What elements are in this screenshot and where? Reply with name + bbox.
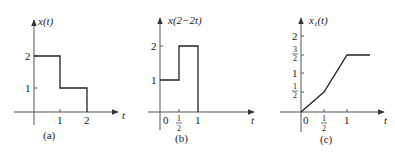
signal-x-t bbox=[34, 56, 87, 112]
ytick-c-32-den: 2 bbox=[293, 54, 297, 63]
plot-a: x(t) 2 1 1 2 t (a) bbox=[14, 15, 126, 142]
xtick-b-0: 0 bbox=[163, 114, 169, 126]
caption-b: (b) bbox=[175, 132, 188, 145]
xtick-b-half-num: 1 bbox=[177, 114, 181, 123]
ytick-c-32-num: 3 bbox=[293, 45, 297, 54]
ytick-a-2: 2 bbox=[25, 50, 31, 62]
xtick-a-1: 1 bbox=[57, 114, 63, 126]
title-b: x(2−2t) bbox=[167, 14, 202, 27]
t-label-b: t bbox=[251, 114, 255, 126]
xtick-a-2: 2 bbox=[84, 114, 90, 126]
ytick-c-2: 2 bbox=[292, 30, 298, 42]
t-label-c: t bbox=[384, 114, 388, 126]
ytick-b-2: 2 bbox=[151, 40, 157, 52]
caption-c: (c) bbox=[320, 133, 333, 146]
xtick-c-0: 0 bbox=[303, 114, 309, 126]
ytick-c-1: 1 bbox=[292, 67, 298, 79]
xtick-b-1: 1 bbox=[195, 114, 201, 126]
plot-b: x(2−2t) 2 1 0 1 2 1 t (b) bbox=[148, 14, 255, 145]
title-c: x1(t) bbox=[308, 14, 328, 28]
caption-a: (a) bbox=[43, 129, 56, 142]
t-label-a: t bbox=[122, 109, 126, 121]
signal-x-2-2t bbox=[160, 46, 198, 112]
ytick-c-half-num: 1 bbox=[293, 82, 297, 91]
xtick-c-half-den: 2 bbox=[322, 124, 326, 133]
plot-c: x1(t) 2 3 2 1 1 2 0 1 2 1 t (c) bbox=[280, 14, 388, 146]
ytick-a-1: 1 bbox=[25, 82, 31, 94]
ytick-b-1: 1 bbox=[151, 74, 157, 86]
title-a: x(t) bbox=[37, 15, 54, 28]
signal-x1-t bbox=[301, 55, 370, 112]
xtick-c-1: 1 bbox=[344, 114, 350, 126]
figure: x(t) 2 1 1 2 t (a) x(2−2t) 2 1 0 1 2 1 t… bbox=[0, 0, 395, 154]
xtick-c-half-num: 1 bbox=[322, 114, 326, 123]
ytick-c-half-den: 2 bbox=[293, 91, 297, 100]
